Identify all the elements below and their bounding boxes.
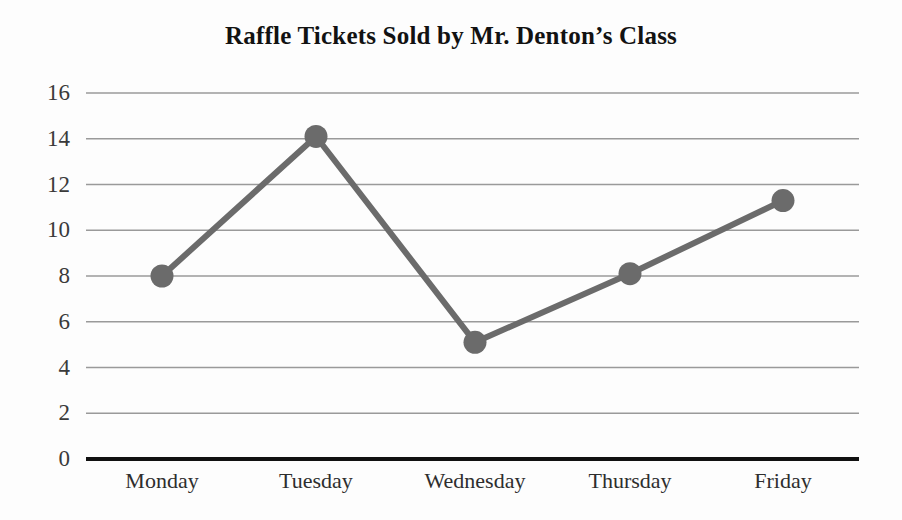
line-chart-figure: Raffle Tickets Sold by Mr. Denton’s Clas… (0, 0, 902, 520)
data-point-marker (772, 189, 795, 212)
y-tick-label: 14 (20, 127, 70, 150)
data-point-marker (464, 331, 487, 354)
series-line (162, 136, 783, 342)
x-tick-label: Monday (72, 470, 252, 492)
y-tick-label: 0 (20, 447, 70, 470)
data-line-group (162, 136, 783, 342)
data-point-marker (151, 265, 174, 288)
y-tick-label: 10 (20, 218, 70, 241)
y-tick-label: 4 (20, 356, 70, 379)
y-tick-label: 2 (20, 401, 70, 424)
x-tick-label: Tuesday (226, 470, 406, 492)
gridlines-group (86, 93, 859, 413)
x-tick-label: Friday (693, 470, 873, 492)
data-point-marker (305, 125, 328, 148)
y-tick-label: 12 (20, 173, 70, 196)
y-tick-label: 6 (20, 310, 70, 333)
x-tick-label: Wednesday (385, 470, 565, 492)
data-point-marker (619, 262, 642, 285)
y-tick-label: 16 (20, 81, 70, 104)
y-tick-label: 8 (20, 264, 70, 287)
plot-area (0, 0, 902, 520)
